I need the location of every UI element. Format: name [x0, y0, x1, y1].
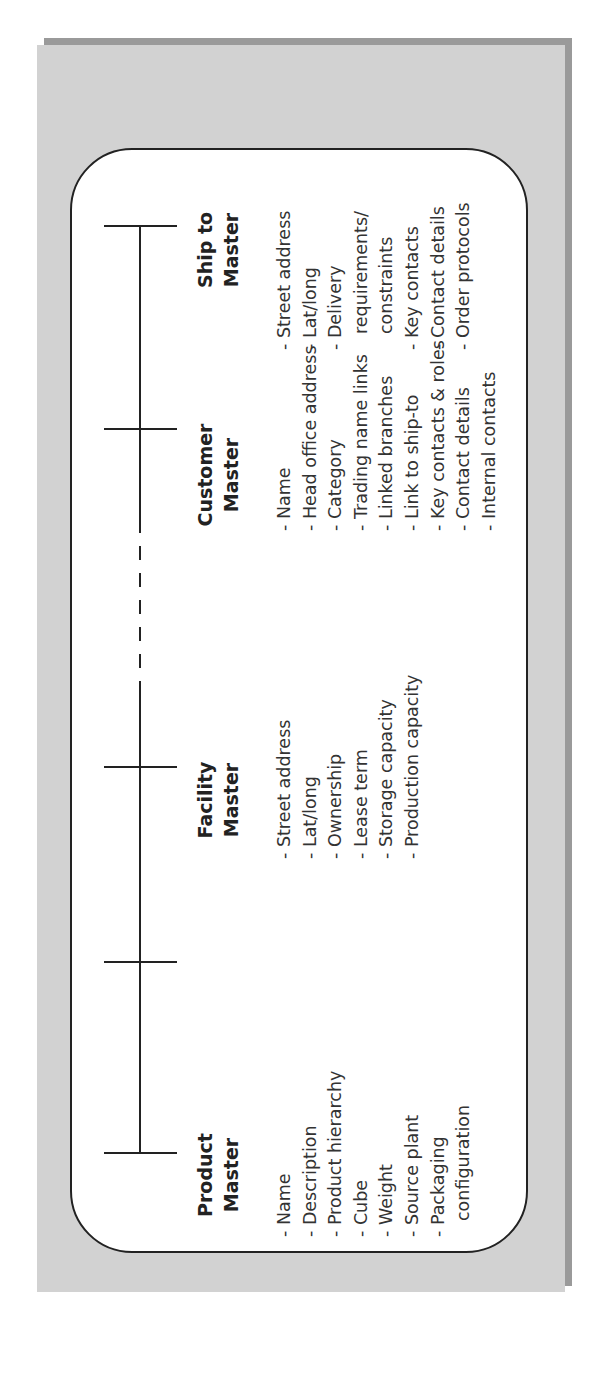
list-item: - Order protocols	[451, 202, 477, 350]
facility-header: Facility Master	[192, 720, 244, 880]
list-item: - Trading name links	[349, 340, 375, 531]
customer-title-1: Customer	[192, 395, 218, 555]
customer-items: - Name - Head office address - Category …	[272, 340, 502, 531]
product-title-2: Master	[218, 1095, 244, 1255]
list-item: - Lat/long	[298, 202, 324, 350]
list-item: - Category	[323, 340, 349, 531]
list-item: - Contact details	[451, 340, 477, 531]
list-item: - Lease term	[349, 675, 375, 859]
list-item: - Linked branches	[374, 340, 400, 531]
list-item: - Key contacts	[400, 202, 426, 350]
list-item: - Lat/long	[298, 675, 324, 859]
shipto-title-1: Ship to	[192, 170, 218, 330]
shipto-items: - Street address - Lat/long - Delivery r…	[272, 202, 477, 350]
list-item: - Description	[298, 1071, 324, 1237]
list-item: - Contact details	[426, 202, 452, 350]
list-item: - Key contacts & roles	[426, 340, 452, 531]
customer-title-2: Master	[218, 395, 244, 555]
shipto-header: Ship to Master	[192, 170, 244, 330]
product-header: Product Master	[192, 1095, 244, 1255]
facility-title-1: Facility	[192, 720, 218, 880]
shipto-title-2: Master	[218, 170, 244, 330]
list-item: - Link to ship-to	[400, 340, 426, 531]
list-item: constraints	[374, 202, 400, 350]
list-item: - Name	[272, 340, 298, 531]
list-item: - Name	[272, 1071, 298, 1237]
customer-header: Customer Master	[192, 395, 244, 555]
list-item: - Storage capacity	[374, 675, 400, 859]
list-item: - Production capacity	[400, 675, 426, 859]
list-item: - Product hierarchy	[323, 1071, 349, 1237]
list-item: - Delivery	[323, 202, 349, 350]
list-item: - Street address	[272, 675, 298, 859]
facility-title-2: Master	[218, 720, 244, 880]
list-item: - Packaging	[426, 1071, 452, 1237]
facility-items: - Street address - Lat/long - Ownership …	[272, 675, 426, 859]
product-title-1: Product	[192, 1095, 218, 1255]
list-item: - Weight	[374, 1071, 400, 1237]
product-items: - Name - Description - Product hierarchy…	[272, 1071, 477, 1237]
list-item: - Cube	[349, 1071, 375, 1237]
list-item: requirements/	[349, 202, 375, 350]
list-item: - Source plant	[400, 1071, 426, 1237]
list-item: - Internal contacts	[477, 340, 503, 531]
list-item: configuration	[451, 1071, 477, 1237]
list-item: - Head office address	[298, 340, 324, 531]
list-item: - Ownership	[323, 675, 349, 859]
list-item: - Street address	[272, 202, 298, 350]
